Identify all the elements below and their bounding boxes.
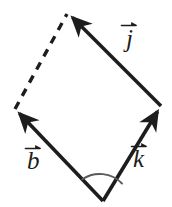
vector-label-b-text: b (27, 147, 40, 174)
vector-diagram-figure: j b k (0, 0, 172, 207)
vector-label-j: j (126, 26, 133, 51)
dashed-side-segment (15, 14, 67, 109)
vector-arrow-accent-b (25, 144, 42, 151)
vector-arrow-accent-j (121, 21, 138, 28)
vector-label-k: k (133, 146, 144, 171)
vector-k-arrow (103, 112, 158, 202)
vector-label-k-text: k (133, 145, 144, 172)
vector-j-arrow (73, 18, 162, 107)
vector-label-j-text: j (126, 25, 133, 52)
vector-diagram-canvas (0, 0, 172, 207)
vector-arrow-accent-k (130, 142, 147, 149)
vector-label-b: b (27, 148, 40, 173)
